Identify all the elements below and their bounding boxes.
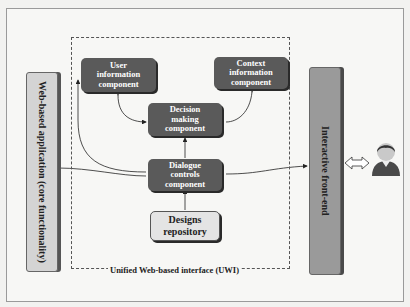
uwi-label: Unified Web-based interface (UWI) bbox=[108, 265, 241, 275]
user-information-component: User information component bbox=[81, 58, 156, 92]
line: Designs bbox=[163, 214, 207, 226]
line: component bbox=[229, 78, 272, 88]
interactive-frontend-bar: Interactive front-end bbox=[309, 67, 341, 275]
line: component bbox=[97, 80, 140, 90]
interactive-frontend-label: Interactive front-end bbox=[320, 126, 331, 216]
user-avatar-icon bbox=[368, 140, 404, 176]
line: repository bbox=[163, 226, 207, 238]
line: component bbox=[165, 180, 205, 190]
dialogue-controls-component: Dialogue controls component bbox=[148, 159, 222, 191]
double-arrow-icon bbox=[345, 157, 369, 169]
line: component bbox=[165, 124, 205, 134]
decision-making-component: Decision making component bbox=[148, 103, 222, 136]
context-information-component: Context information component bbox=[214, 57, 288, 89]
web-application-label: Web-based application (core functionalit… bbox=[37, 81, 48, 263]
web-application-bar: Web-based application (core functionalit… bbox=[26, 72, 58, 272]
designs-repository: Designs repository bbox=[150, 211, 220, 241]
